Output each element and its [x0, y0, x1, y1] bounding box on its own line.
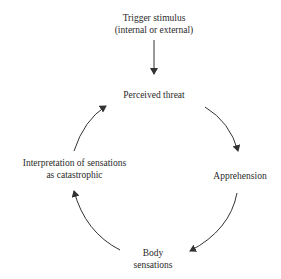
- node-trigger-stimulus: Trigger stimulus (internal or external): [94, 12, 214, 36]
- node-body-line1: Body: [118, 247, 188, 259]
- node-body-line2: sensations: [118, 259, 188, 271]
- arrow-interpretation-to-threat: [74, 106, 106, 151]
- node-interpretation: Interpretation of sensations as catastro…: [2, 157, 147, 181]
- node-apprehension-label: Apprehension: [200, 170, 280, 182]
- arrow-apprehension-to-body: [190, 193, 237, 251]
- arrow-threat-to-apprehension: [205, 107, 238, 151]
- node-body-sensations: Body sensations: [118, 247, 188, 271]
- node-apprehension: Apprehension: [200, 170, 280, 182]
- arrows-layer: [0, 0, 281, 279]
- arrow-body-to-interpretation: [74, 191, 120, 250]
- node-interpretation-line2: as catastrophic: [2, 169, 147, 181]
- node-trigger-line1: Trigger stimulus: [94, 12, 214, 24]
- panic-cycle-diagram: Trigger stimulus (internal or external) …: [0, 0, 281, 279]
- node-trigger-line2: (internal or external): [94, 24, 214, 36]
- node-interpretation-line1: Interpretation of sensations: [2, 157, 147, 169]
- node-threat-label: Perceived threat: [99, 89, 209, 101]
- node-perceived-threat: Perceived threat: [99, 89, 209, 101]
